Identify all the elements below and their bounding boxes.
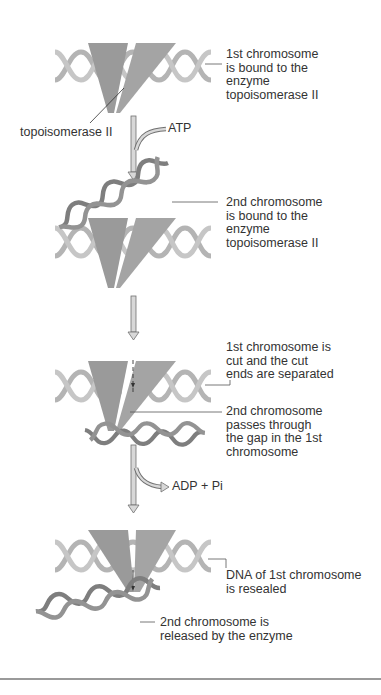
arrow-step1-to-step2 xyxy=(128,116,166,180)
arrow-step3-to-step4 xyxy=(128,445,169,513)
step4-reseal-label: DNA of 1st chromosome is resealed xyxy=(226,569,361,596)
step3-cut-label: 1st chromosome is cut and the cut ends a… xyxy=(226,341,334,382)
adp-label: ADP + Pi xyxy=(172,480,223,494)
enzyme-label: topoisomerase II xyxy=(20,126,112,140)
step1-complex xyxy=(55,43,211,113)
step4-reseal-leader xyxy=(208,559,226,568)
bottom-divider xyxy=(0,678,381,680)
step2-label: 2nd chromosome is bound to the enzyme to… xyxy=(226,196,323,250)
step4-release-label: 2nd chromosome is released by the enzyme xyxy=(160,616,293,643)
atp-label: ATP xyxy=(168,122,191,136)
step1-label: 1st chromosome is bound to the enzyme to… xyxy=(226,48,318,102)
arrow-step2-to-step3 xyxy=(128,296,139,340)
step3-pass-label: 2nd chromosome passes through the gap in… xyxy=(226,405,323,459)
